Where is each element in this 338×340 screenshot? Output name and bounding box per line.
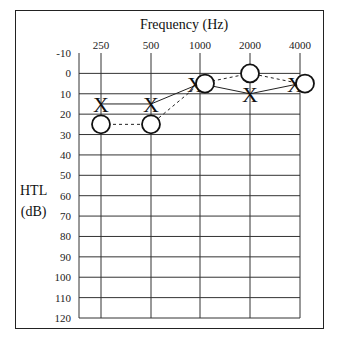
audiogram-chart: -100102030405060708090100110120250500100… (0, 0, 338, 340)
marker-x-icon: X (93, 92, 109, 117)
marker-x-icon: X (242, 82, 258, 107)
y-tick-label: 10 (60, 88, 72, 100)
y-tick-label: 60 (60, 190, 72, 202)
y-tick-label: 70 (60, 210, 72, 222)
y-tick-label: -10 (56, 47, 71, 59)
marker-o-icon (241, 64, 259, 82)
marker-o-icon (196, 75, 214, 93)
y-tick-label: 20 (60, 108, 72, 120)
marker-o-icon (142, 115, 160, 133)
y-tick-label: 50 (60, 169, 72, 181)
x-tick-label: 2000 (239, 39, 262, 51)
y-tick-label: 110 (55, 292, 72, 304)
y-tick-label: 120 (55, 312, 72, 324)
marker-o-icon (92, 115, 110, 133)
y-tick-label: 100 (55, 271, 72, 283)
marker-o-icon (296, 75, 314, 93)
x-tick-label: 1000 (189, 39, 212, 51)
y-tick-label: 80 (60, 230, 72, 242)
x-tick-label: 4000 (289, 39, 312, 51)
y-tick-label: 30 (60, 129, 72, 141)
x-tick-label: 500 (143, 39, 160, 51)
y-tick-label: 40 (60, 149, 72, 161)
marker-x-icon: X (143, 92, 159, 117)
x-tick-label: 250 (93, 39, 110, 51)
y-tick-label: 90 (60, 251, 72, 263)
y-tick-label: 0 (66, 67, 72, 79)
